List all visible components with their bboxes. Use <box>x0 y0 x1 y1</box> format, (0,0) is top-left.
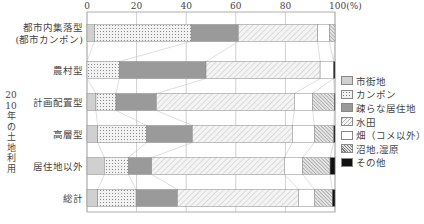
bar-segment <box>136 190 177 207</box>
legend-swatch-icon <box>341 117 353 126</box>
bar-segment <box>292 126 314 143</box>
bar-segment <box>206 62 320 79</box>
bar-segment <box>94 25 191 42</box>
bar-segment <box>330 158 335 175</box>
bar-segment <box>332 190 335 207</box>
bar-segment <box>294 94 312 111</box>
legend-label: 疎らな居住地 <box>356 101 416 115</box>
legend-label: 水田 <box>356 115 376 129</box>
legend-item: カンポン <box>341 88 424 102</box>
x-tick-label: 20 <box>131 1 143 11</box>
legend-item: 畑（コメ以外） <box>341 128 424 142</box>
y-axis-title: 2010年の土地利用 <box>4 90 18 174</box>
x-axis-ticks: 020406080100(%) <box>84 1 362 11</box>
bar-row <box>87 62 335 79</box>
bar-segment <box>192 126 292 143</box>
legend-item: 市街地 <box>341 74 424 88</box>
legend-label: カンポン <box>356 87 396 101</box>
bars <box>87 25 335 207</box>
bar-segment <box>318 25 330 42</box>
bar-row <box>87 190 335 207</box>
bar-segment <box>334 62 335 79</box>
category-label: 都市内集落型 <box>23 22 83 33</box>
legend-swatch-icon <box>341 76 353 85</box>
bar-segment <box>313 94 335 111</box>
bar-segment <box>320 62 333 79</box>
bar-segment <box>314 190 332 207</box>
legend: 市街地カンポン疎らな居住地水田畑（コメ以外）沼地,湿原その他 <box>341 74 424 169</box>
bar-segment <box>128 158 151 175</box>
bar-segment <box>238 25 317 42</box>
bar-segment <box>156 94 294 111</box>
bar-segment <box>87 126 98 143</box>
bar-segment <box>104 158 128 175</box>
legend-item: 疎らな居住地 <box>341 101 424 115</box>
bar-segment <box>98 190 136 207</box>
category-label: 農村型 <box>53 65 83 76</box>
legend-label: 市街地 <box>356 74 386 88</box>
x-tick-label: 0 <box>84 1 90 11</box>
category-label: 居住地以外 <box>33 161 83 172</box>
bar-segment <box>96 94 116 111</box>
legend-item: その他 <box>341 156 424 170</box>
bar-segment <box>152 158 285 175</box>
bar-segment <box>329 25 335 42</box>
bar-segment <box>284 158 302 175</box>
bar-segment <box>87 25 94 42</box>
bar-segment <box>87 94 96 111</box>
bar-segment <box>87 62 119 79</box>
bar-segment <box>314 126 333 143</box>
legend-item: 沼地,湿原 <box>341 142 424 156</box>
x-tick-label: 80 <box>280 1 292 11</box>
bar-row <box>87 94 335 111</box>
bar-segment <box>178 190 299 207</box>
bar-segment <box>119 62 206 79</box>
legend-label: その他 <box>356 155 386 169</box>
bar-row <box>87 126 335 143</box>
legend-swatch-icon <box>341 90 353 99</box>
x-tick-label: 100(%) <box>329 1 362 11</box>
legend-swatch-icon <box>341 158 353 167</box>
bar-segment <box>87 190 98 207</box>
bar-row <box>87 158 335 175</box>
bar-segment <box>87 158 104 175</box>
legend-label: 沼地,湿原 <box>356 142 399 156</box>
bar-segment <box>334 126 335 143</box>
bar-segment <box>98 126 147 143</box>
x-tick-label: 60 <box>230 1 242 11</box>
bar-segment <box>191 25 238 42</box>
bar-segment <box>147 126 193 143</box>
legend-item: 水田 <box>341 115 424 129</box>
bar-segment <box>334 94 335 111</box>
category-label: 高層型 <box>53 129 83 140</box>
category-label: 総計 <box>63 193 83 204</box>
bar-row <box>87 25 335 42</box>
legend-swatch-icon <box>341 103 353 112</box>
bar-segment <box>116 94 156 111</box>
category-label: (都市カンポン) <box>16 34 83 45</box>
x-tick-label: 40 <box>180 1 192 11</box>
bar-segment <box>299 190 315 207</box>
legend-swatch-icon <box>341 144 353 153</box>
category-label: 計画配置型 <box>33 97 83 108</box>
category-labels: 都市内集落型(都市カンポン)農村型計画配置型高層型居住地以外総計 <box>16 22 83 204</box>
grid-lines <box>87 12 335 212</box>
bar-segment <box>303 158 330 175</box>
legend-label: 畑（コメ以外） <box>356 128 424 142</box>
legend-swatch-icon <box>341 131 353 140</box>
